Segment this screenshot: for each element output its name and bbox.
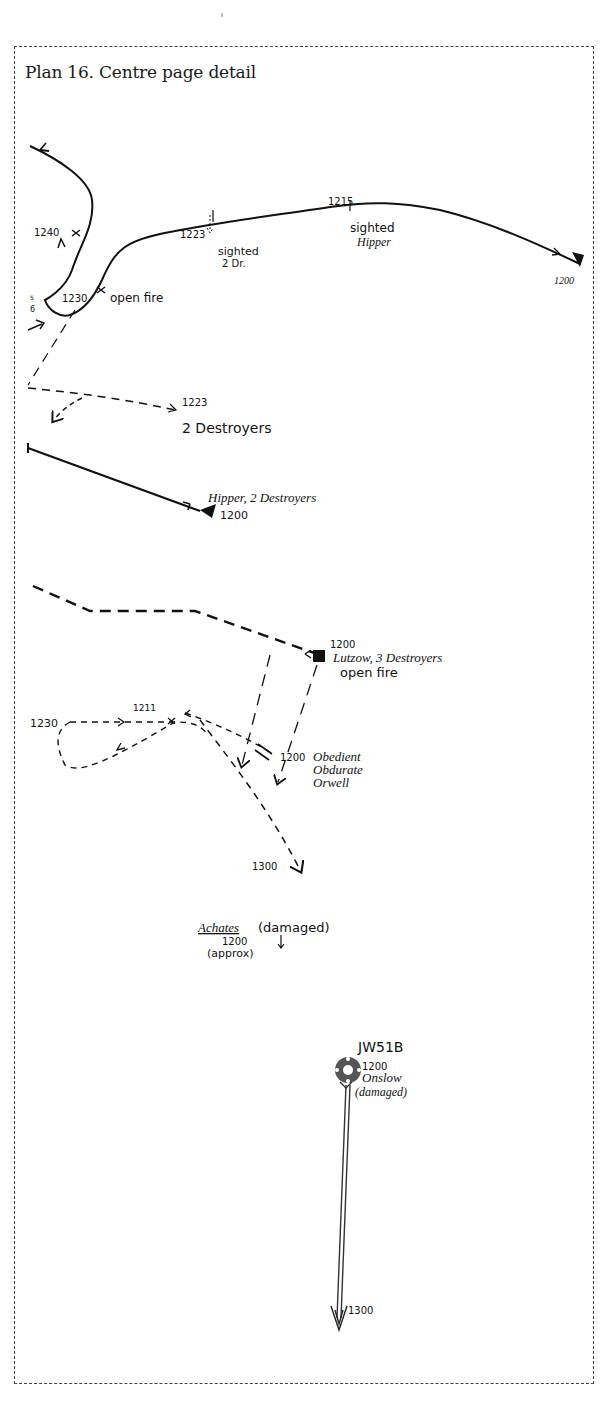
sighted-note: 2 Dr. xyxy=(222,258,246,269)
time-label: 1200 xyxy=(280,752,305,763)
sight-line xyxy=(28,310,75,385)
two-destroyers-track xyxy=(28,388,176,420)
time-label: 1300 xyxy=(252,861,277,872)
open-fire-note: open fire xyxy=(110,291,163,305)
onslow-status: (damaged) xyxy=(355,1085,407,1099)
time-label: 1300 xyxy=(348,1305,373,1316)
time-label: 1230 xyxy=(62,293,87,304)
ship-name-orwell: Orwell xyxy=(313,775,350,790)
time-label: 1223 xyxy=(180,229,205,240)
small-mark: 6 xyxy=(30,305,35,314)
destroyers-track xyxy=(58,710,300,870)
hipper-label: Hipper, 2 Destroyers xyxy=(207,490,316,505)
track-arrow-icon xyxy=(58,239,65,248)
time-mark-icon xyxy=(97,287,105,293)
lutzow-label: Lutzow, 3 Destroyers xyxy=(332,650,442,665)
time-label: 1215 xyxy=(328,196,353,207)
approx-note: (approx) xyxy=(207,947,253,960)
time-label: 1200 xyxy=(220,509,248,522)
start-position-icon xyxy=(572,252,584,267)
time-label: 1211 xyxy=(133,703,156,713)
time-label: 1200 xyxy=(330,639,355,650)
two-destroyers-label: 2 Destroyers xyxy=(182,420,272,436)
start-position-icon xyxy=(313,650,325,662)
onslow-label: Onslow xyxy=(362,1070,402,1085)
arrow-down-icon xyxy=(331,1306,347,1330)
time-label: 1200 xyxy=(554,275,574,286)
achates-marker xyxy=(278,935,284,948)
sighted-note: sighted xyxy=(350,221,395,235)
start-position-icon xyxy=(200,504,216,518)
small-mark: 5 xyxy=(30,294,34,301)
track-arrow-icon xyxy=(40,143,49,151)
time-label: 1240 xyxy=(34,227,59,238)
time-mark-icon xyxy=(72,230,80,236)
tactical-plot: 1240 1230 open fire 1223 sighted 2 Dr. 1… xyxy=(0,0,609,1401)
time-label: 1223 xyxy=(182,397,207,408)
convoy-label: JW51B xyxy=(357,1039,403,1055)
achates-label: Achates xyxy=(197,920,239,935)
time-label: 1200 xyxy=(222,936,247,947)
time-label: 1230 xyxy=(30,717,58,730)
hipper-note: Hipper xyxy=(356,235,391,249)
sighted-note: sighted xyxy=(218,245,259,258)
open-fire-note: open fire xyxy=(340,665,398,680)
hipper-track xyxy=(28,443,216,518)
achates-status: (damaged) xyxy=(258,920,330,935)
